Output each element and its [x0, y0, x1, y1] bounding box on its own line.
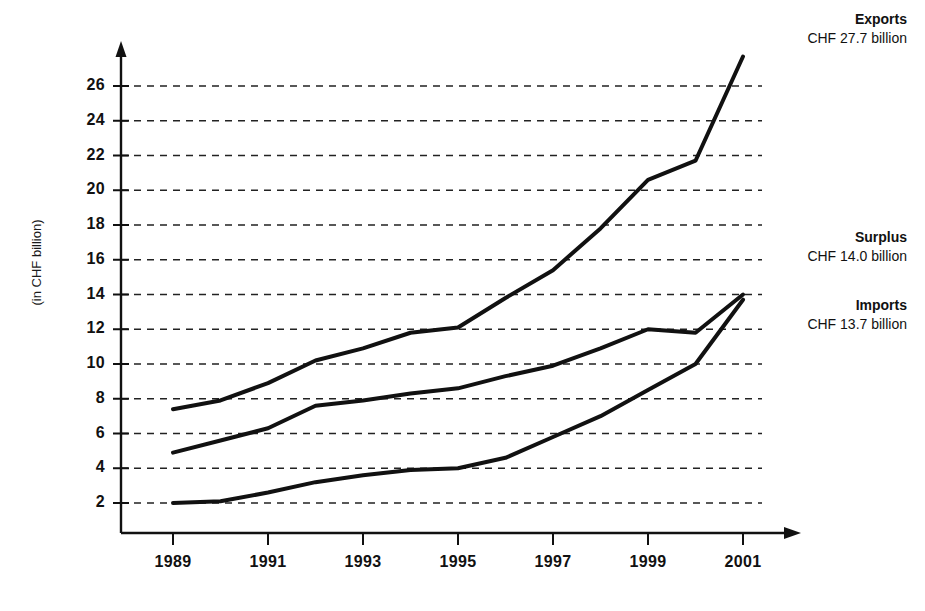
x-tick-label: 1993: [323, 553, 403, 571]
y-tick-label: 22: [63, 146, 105, 164]
x-tick-label: 1999: [608, 553, 688, 571]
y-tick-label: 8: [63, 389, 105, 407]
y-tick-label: 10: [63, 354, 105, 372]
annotation-surplus: SurplusCHF 14.0 billion: [807, 228, 907, 266]
series-line-surplus: [173, 295, 743, 453]
line-chart: (in CHF billion) 2468101214161820222426 …: [0, 0, 925, 611]
annotation-imports: ImportsCHF 13.7 billion: [807, 296, 907, 334]
x-axis-ticks: [173, 533, 743, 545]
x-tick-label: 2001: [703, 553, 783, 571]
y-tick-label: 4: [63, 458, 105, 476]
y-axis-arrow-icon: [116, 41, 127, 57]
y-tick-label: 2: [63, 493, 105, 511]
data-series: [173, 56, 743, 503]
chart-plot-area: [0, 0, 925, 611]
x-tick-label: 1991: [228, 553, 308, 571]
annotation-value: CHF 14.0 billion: [807, 247, 907, 266]
annotation-value: CHF 13.7 billion: [807, 315, 907, 334]
annotation-value: CHF 27.7 billion: [807, 29, 907, 48]
y-axis-title: (in CHF billion): [29, 183, 44, 343]
y-tick-label: 6: [63, 424, 105, 442]
y-tick-label: 16: [63, 250, 105, 268]
annotation-title: Surplus: [807, 228, 907, 247]
x-tick-label: 1997: [513, 553, 593, 571]
y-tick-label: 12: [63, 319, 105, 337]
annotation-title: Exports: [807, 10, 907, 29]
y-tick-label: 24: [63, 111, 105, 129]
x-axis-arrow-icon: [784, 527, 801, 539]
x-tick-label: 1995: [418, 553, 498, 571]
series-line-exports: [173, 56, 743, 409]
annotation-title: Imports: [807, 296, 907, 315]
y-tick-label: 20: [63, 180, 105, 198]
y-tick-label: 14: [63, 285, 105, 303]
y-tick-label: 18: [63, 215, 105, 233]
x-tick-label: 1989: [133, 553, 213, 571]
y-tick-label: 26: [63, 76, 105, 94]
annotation-exports: ExportsCHF 27.7 billion: [807, 10, 907, 48]
